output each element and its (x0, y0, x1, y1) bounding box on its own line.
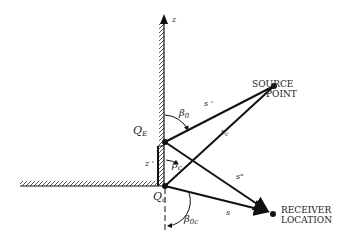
receiver-location-label-line1: RECEIVER (281, 205, 331, 215)
s-prime-label: s ' (204, 99, 213, 108)
source-point-label-line1: SOURCE (252, 79, 293, 89)
z-axis-arrow-icon (160, 14, 168, 24)
receiver-point-dot (270, 211, 276, 217)
z-axis-label: z (171, 15, 177, 24)
qc-label: Qc (153, 190, 166, 204)
ground-surface (20, 181, 164, 186)
ray-s-double-prime (165, 142, 266, 210)
reflection-geometry-diagram: z β0 βc β0c QE Qc z ' s ' sc s" s SOURCE… (0, 0, 339, 243)
beta0-label: β0 (178, 107, 190, 120)
betac-label: βc (171, 159, 182, 172)
beta0c-label: β0c (183, 213, 198, 226)
source-point-label-line2: POINT (266, 89, 297, 99)
qe-label: QE (133, 124, 147, 138)
s-double-prime-label: s" (236, 172, 244, 181)
receiver-location-label-line2: LOCATION (281, 215, 332, 225)
ray-s (165, 186, 266, 211)
qe-point-dot (162, 139, 168, 145)
z-prime-label: z ' (144, 159, 154, 168)
s-label: s (226, 208, 230, 217)
qc-point-dot (162, 183, 168, 189)
